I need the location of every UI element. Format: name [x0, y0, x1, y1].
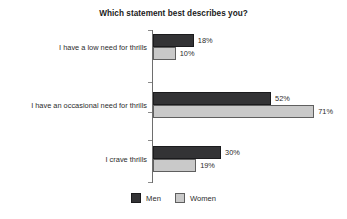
bar-value-label: 19% — [200, 161, 215, 170]
plot-area: I have a low need for thrills18%10%I hav… — [0, 0, 347, 219]
category-label: I crave thrills — [0, 155, 147, 164]
legend-swatch-men-icon — [131, 193, 141, 203]
bar-row: 18% — [153, 34, 194, 47]
bar-row: 19% — [153, 159, 196, 172]
bar-value-label: 71% — [318, 107, 333, 116]
category-label: I have an occasional need for thrills — [0, 101, 147, 110]
bar-chart: Which statement best describes you? I ha… — [0, 0, 347, 219]
axis-tick — [148, 30, 152, 31]
axis-tick — [148, 140, 152, 141]
bar-row: 30% — [153, 146, 221, 159]
axis-tick — [148, 182, 152, 183]
legend-item-women[interactable]: Women — [175, 193, 216, 203]
bar-men[interactable] — [153, 34, 194, 47]
bar-value-label: 18% — [198, 36, 213, 45]
axis-tick — [148, 82, 152, 83]
bar-row: 52% — [153, 92, 271, 105]
bar-men[interactable] — [153, 92, 271, 105]
legend-label-women: Women — [190, 194, 216, 203]
axis-tick — [148, 112, 152, 113]
bar-women[interactable] — [153, 159, 196, 172]
bar-value-label: 52% — [275, 94, 290, 103]
bar-women[interactable] — [153, 47, 176, 60]
bar-row: 71% — [153, 105, 314, 118]
legend-label-men: Men — [146, 194, 161, 203]
legend-item-men[interactable]: Men — [131, 193, 161, 203]
bar-value-label: 30% — [225, 148, 240, 157]
chart-legend: Men Women — [0, 193, 347, 203]
bar-value-label: 10% — [180, 49, 195, 58]
bar-women[interactable] — [153, 105, 314, 118]
bar-men[interactable] — [153, 146, 221, 159]
bar-row: 10% — [153, 47, 176, 60]
legend-swatch-women-icon — [175, 193, 185, 203]
category-label: I have a low need for thrills — [0, 43, 147, 52]
